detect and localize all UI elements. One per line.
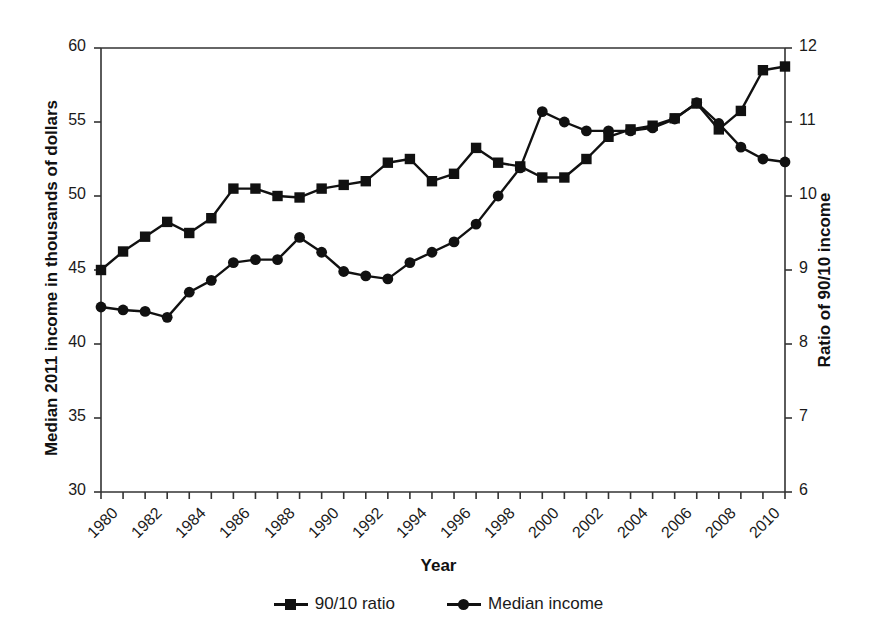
data-point-marker: [713, 118, 724, 129]
data-point-marker: [669, 114, 680, 125]
data-point-marker: [537, 172, 547, 182]
data-point-marker: [559, 172, 569, 182]
data-point-marker: [140, 306, 151, 317]
y-axis-right-tick-label: 10: [799, 185, 839, 203]
y-axis-left-tick-label: 35: [46, 407, 86, 425]
y-axis-left-tick-label: 30: [46, 481, 86, 499]
y-axis-left-tick-label: 40: [46, 333, 86, 351]
y-axis-left-tick-label: 50: [46, 185, 86, 203]
data-point-marker: [96, 265, 106, 275]
data-point-marker: [140, 232, 150, 242]
chart-legend: 90/10 ratioMedian income: [0, 594, 877, 614]
data-point-marker: [735, 142, 746, 153]
legend-item-1[interactable]: 90/10 ratio: [274, 594, 395, 614]
data-point-marker: [250, 183, 260, 193]
chart-figure: Median 2011 income in thousands of dolla…: [0, 0, 877, 635]
y-axis-right-ticks: [785, 48, 792, 492]
data-point-marker: [427, 176, 437, 186]
y-axis-left-tick-label: 60: [46, 37, 86, 55]
data-point-marker: [691, 97, 702, 108]
legend-item-2[interactable]: Median income: [447, 594, 603, 614]
data-point-marker: [405, 257, 416, 268]
series-line-2: [101, 103, 785, 318]
data-point-marker: [449, 236, 460, 247]
data-point-marker: [625, 125, 636, 136]
data-point-marker: [493, 191, 504, 202]
y-axis-right-tick-label: 9: [799, 259, 839, 277]
data-point-marker: [493, 158, 503, 168]
data-point-marker: [471, 143, 481, 153]
data-point-marker: [184, 228, 194, 238]
data-point-marker: [316, 183, 326, 193]
data-point-marker: [449, 169, 459, 179]
data-point-marker: [339, 180, 349, 190]
y-axis-left-tick-label: 55: [46, 111, 86, 129]
data-point-marker: [184, 287, 195, 298]
data-point-marker: [647, 123, 658, 134]
data-point-marker: [361, 176, 371, 186]
data-point-marker: [758, 154, 769, 165]
y-axis-left-tick-label: 45: [46, 259, 86, 277]
legend-label: 90/10 ratio: [315, 594, 395, 614]
legend-marker-square-icon: [274, 597, 308, 611]
y-axis-right-tick-label: 8: [799, 333, 839, 351]
data-point-marker: [780, 61, 790, 71]
data-point-marker: [206, 213, 216, 223]
data-point-marker: [471, 219, 482, 230]
data-point-marker: [338, 266, 349, 277]
data-point-marker: [250, 254, 261, 265]
data-point-marker: [537, 106, 548, 117]
data-point-marker: [118, 246, 128, 256]
data-point-marker: [360, 271, 371, 282]
y-axis-right-tick-label: 11: [799, 111, 839, 129]
data-point-marker: [162, 217, 172, 227]
data-point-marker: [294, 192, 304, 202]
data-point-marker: [581, 154, 591, 164]
data-point-marker: [405, 154, 415, 164]
data-point-marker: [272, 191, 282, 201]
data-point-marker: [272, 254, 283, 265]
y-axis-right-tick-label: 7: [799, 407, 839, 425]
data-point-marker: [603, 125, 614, 136]
data-point-marker: [581, 125, 592, 136]
data-point-marker: [228, 257, 239, 268]
data-point-marker: [96, 302, 107, 313]
data-point-marker: [758, 65, 768, 75]
data-point-marker: [228, 183, 238, 193]
x-axis-ticks: [101, 492, 785, 499]
data-point-marker: [780, 157, 791, 168]
data-series-layer: [96, 61, 791, 322]
data-point-marker: [427, 247, 438, 258]
data-point-marker: [382, 273, 393, 284]
data-point-marker: [383, 158, 393, 168]
data-point-marker: [559, 117, 570, 128]
data-point-marker: [118, 305, 129, 316]
data-point-marker: [736, 106, 746, 116]
data-point-marker: [294, 232, 305, 243]
y-axis-right-tick-label: 6: [799, 481, 839, 499]
data-point-marker: [316, 247, 327, 258]
data-point-marker: [162, 312, 173, 323]
legend-label: Median income: [488, 594, 603, 614]
y-axis-right-tick-label: 12: [799, 37, 839, 55]
data-point-marker: [206, 275, 217, 286]
data-point-marker: [515, 162, 526, 173]
series-line-1: [101, 67, 785, 271]
legend-marker-circle-icon: [447, 597, 481, 611]
